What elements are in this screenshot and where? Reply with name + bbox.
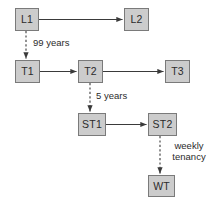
- node-l2[interactable]: L2: [124, 8, 149, 31]
- node-l1[interactable]: L1: [15, 8, 39, 31]
- node-wt[interactable]: WT: [148, 175, 175, 197]
- node-st1[interactable]: ST1: [78, 113, 106, 136]
- node-t2[interactable]: T2: [78, 60, 103, 83]
- edge-label-5-years: 5 years: [96, 91, 127, 102]
- node-wt-label: WT: [153, 181, 170, 192]
- node-t3-label: T3: [171, 66, 184, 77]
- edge-label-weekly-line2: tenancy: [166, 151, 212, 162]
- node-l1-label: L1: [21, 14, 33, 25]
- edge-label-weekly-line1: weekly: [166, 140, 212, 151]
- edge-label-weekly-tenancy: weekly tenancy: [166, 140, 212, 163]
- node-st2[interactable]: ST2: [148, 113, 177, 136]
- node-t2-label: T2: [84, 66, 97, 77]
- node-t1-label: T1: [21, 66, 34, 77]
- node-t1[interactable]: T1: [15, 60, 40, 83]
- node-t3[interactable]: T3: [165, 60, 190, 83]
- node-st2-label: ST2: [153, 119, 173, 130]
- diagram-canvas: L1 L2 T1 T2 T3 ST1 ST2 WT 99 years 5 yea…: [0, 0, 214, 206]
- edge-label-99-years: 99 years: [33, 38, 69, 49]
- node-st1-label: ST1: [82, 119, 102, 130]
- node-l2-label: L2: [130, 14, 142, 25]
